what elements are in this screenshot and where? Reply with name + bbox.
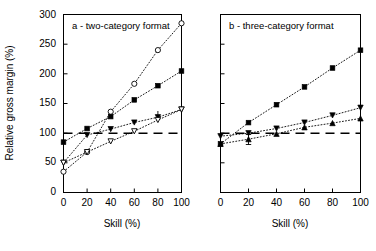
panel-a-x-tick-40: 40 — [105, 197, 117, 208]
chart-figure: Relative gross margin (%) 300 250 200 15… — [0, 0, 376, 251]
panel-b-series-filled-square — [218, 48, 363, 146]
panel-a-x-axis-title: Skill (%) — [104, 218, 141, 229]
panel-b-y-ticks — [221, 15, 225, 193]
panel-a-series-open-triangle — [61, 107, 184, 165]
panel-a-x-tick-20: 20 — [82, 197, 94, 208]
panel-b-x-axis-title: Skill (%) — [272, 218, 309, 229]
y-tick-label-50: 50 — [45, 156, 57, 167]
chart-canvas: Relative gross margin (%) 300 250 200 15… — [0, 0, 376, 251]
y-tick-label-100: 100 — [39, 127, 56, 138]
panel-b: b - three-category format — [218, 15, 370, 230]
panel-a-y-ticks — [64, 15, 68, 193]
y-tick-label-200: 200 — [39, 68, 56, 79]
panel-b-x-tick-80: 80 — [327, 197, 339, 208]
y-tick-label-250: 250 — [39, 38, 56, 49]
panel-b-series-triangle-up — [218, 116, 363, 147]
panel-a-series-open-circle — [61, 21, 184, 175]
panel-b-x-tick-20: 20 — [243, 197, 255, 208]
panel-b-x-tick-0: 0 — [218, 197, 224, 208]
y-axis-title: Relative gross margin (%) — [4, 45, 15, 160]
panel-b-x-ticks — [221, 189, 361, 193]
panel-a-title: a - two-category format — [72, 20, 170, 31]
panel-a-x-tick-80: 80 — [152, 197, 164, 208]
panel-a-frame — [64, 15, 182, 193]
panel-b-x-tick-100: 100 — [352, 197, 369, 208]
panel-a-x-tick-100: 100 — [173, 197, 190, 208]
panel-b-x-tick-60: 60 — [299, 197, 311, 208]
panel-a-x-tick-60: 60 — [129, 197, 141, 208]
y-tick-label-300: 300 — [39, 9, 56, 20]
y-tick-label-150: 150 — [39, 97, 56, 108]
panel-a-x-ticks — [64, 189, 182, 193]
panel-b-x-tick-40: 40 — [271, 197, 283, 208]
panel-b-frame — [221, 15, 361, 193]
panel-b-title: b - three-category format — [229, 20, 334, 31]
y-tick-label-0: 0 — [50, 186, 56, 197]
panel-a-series-filled-square — [61, 69, 184, 145]
panel-a-x-tick-0: 0 — [61, 197, 67, 208]
panel-a: a - two-category format — [61, 15, 191, 230]
